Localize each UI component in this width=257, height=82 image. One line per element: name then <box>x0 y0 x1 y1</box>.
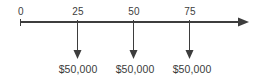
cash-flow-arrowhead-3 <box>186 50 194 59</box>
axis-right-arrowhead <box>238 18 249 27</box>
cash-flow-arrowhead-2 <box>130 50 138 59</box>
cash-flow-label-1: $50,000 <box>59 63 98 75</box>
cash-flow-arrowhead-1 <box>74 50 82 59</box>
cash-flow-label-2: $50,000 <box>116 63 155 75</box>
timeline-diagram: 0 25 50 75 $50,000 $50,000 $50,000 <box>0 0 257 82</box>
tick-label-0: 0 <box>18 6 24 17</box>
tick-label-50: 50 <box>128 6 140 17</box>
tick-label-75: 75 <box>184 6 196 17</box>
tick-label-25: 25 <box>72 6 84 17</box>
cash-flow-label-3: $50,000 <box>173 63 212 75</box>
